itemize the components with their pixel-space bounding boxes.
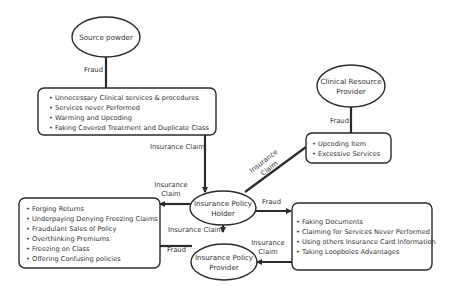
label-source-claim: Insurance Claim: [150, 143, 205, 151]
holder-label-2: Holder: [211, 209, 235, 218]
box-item: • Unnecessary Clinical services & proced…: [49, 94, 199, 102]
provider-label-2: Provider: [209, 263, 239, 272]
label-left-claim-2: Claim: [161, 190, 181, 198]
label-source-fraud: Fraud: [84, 66, 103, 74]
box-item: • Faking Covered Treatment and Duplicate…: [49, 124, 209, 132]
node-insurance-policy-holder: Insurance Policy Holder: [190, 191, 256, 225]
source-powder-label: Source powder: [79, 33, 133, 42]
label-clinical-fraud: Fraud: [330, 117, 349, 125]
box-item: • Forging Returns: [26, 205, 85, 213]
label-right-claim-2: Claim: [258, 248, 278, 256]
label-holder-fraud: Fraud: [262, 198, 281, 206]
box-item: • Services never Performed: [49, 104, 140, 112]
box-item: • Fraudulant Sales of Policy: [26, 225, 116, 233]
label-right-claim-1: Insurance: [251, 239, 284, 247]
box-item: • Overthinking Premiums: [26, 235, 110, 243]
box-item: • Taking Loopboles Advantages: [296, 248, 400, 256]
box-clinical-frauds: • Upcoding Item • Excessive Services: [306, 133, 391, 163]
box-holder-frauds: • Faking Documents • Claiming for Servic…: [292, 203, 436, 270]
box-item: • Offering Confusing policies: [26, 255, 121, 263]
box-item: • Underpaying Denying Freezing Claims: [26, 215, 158, 223]
box-item: • Freezing on Class: [26, 245, 90, 253]
box-item: • Claiming for Services Never Performed: [296, 228, 430, 236]
label-holder-to-provider: Insurance Claim: [168, 226, 223, 234]
box-item: • Faking Documents: [296, 218, 363, 226]
label-left-fraud: Fraud: [167, 246, 186, 254]
box-item: • Excessive Services: [312, 150, 381, 158]
clinical-provider-label-1: Clinical Resource: [320, 77, 382, 86]
box-source-frauds: • Unnecessary Clinical services & proced…: [38, 88, 216, 135]
box-item: • Upcoding Item: [312, 140, 366, 148]
provider-label-1: Insurance Policy: [195, 253, 254, 262]
box-item: • Warming and Upcoding: [49, 114, 132, 122]
holder-label-1: Insurance Policy: [194, 199, 253, 208]
node-insurance-policy-provider: Insurance Policy Provider: [191, 244, 257, 280]
node-source-powder: Source powder: [72, 17, 140, 57]
fraud-diagram: Source powder • Unnecessary Clinical ser…: [0, 0, 453, 295]
node-clinical-resource-provider: Clinical Resource Provider: [317, 65, 385, 107]
label-left-claim-1: Insurance: [154, 181, 187, 189]
box-provider-frauds: • Forging Returns • Underpaying Denying …: [19, 198, 160, 268]
box-item: • Using others Insurance Card Informatio…: [296, 238, 436, 246]
clinical-provider-label-2: Provider: [336, 87, 366, 96]
